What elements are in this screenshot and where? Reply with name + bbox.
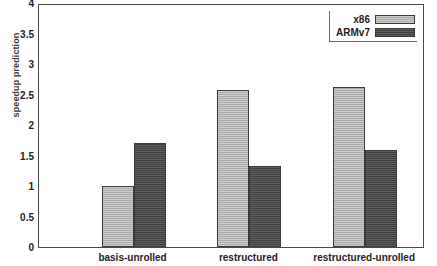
y-tick-label: 3.5 (2, 30, 34, 40)
y-tick-label: 0.5 (2, 213, 34, 223)
y-tick-label: 3 (2, 60, 34, 70)
bar-restructured-ARMv7 (249, 166, 281, 247)
bar-restructured-unrolled-ARMv7 (365, 150, 397, 247)
legend-label: x86 (353, 14, 370, 25)
bar-basis-unrolled-x86 (102, 186, 134, 247)
plot-area: x86ARMv7 (38, 4, 424, 248)
bar-chart-figure: speedup prediction 00.511.522.533.54 x86… (0, 0, 437, 266)
bar-basis-unrolled-ARMv7 (134, 143, 166, 247)
bar-restructured-unrolled-x86 (333, 87, 365, 247)
bar-restructured-x86 (217, 90, 249, 247)
y-tick-label: 1.5 (2, 152, 34, 162)
legend-item-ARMv7: ARMv7 (336, 27, 415, 38)
armv7-swatch (375, 28, 415, 37)
x-tick-label-restructured: restructured (219, 252, 278, 263)
x-tick-label-restructured-unrolled: restructured-unrolled (313, 252, 415, 263)
x86-swatch (375, 15, 415, 24)
y-tick-label: 2.5 (2, 91, 34, 101)
legend-item-x86: x86 (336, 14, 415, 25)
legend-label: ARMv7 (336, 27, 370, 38)
y-tick-label: 1 (2, 182, 34, 192)
y-tick-label: 2 (2, 121, 34, 131)
legend: x86ARMv7 (329, 11, 417, 42)
x-tick-label-basis-unrolled: basis-unrolled (98, 252, 166, 263)
y-tick-label: 4 (2, 0, 34, 9)
y-tick-label: 0 (2, 243, 34, 253)
